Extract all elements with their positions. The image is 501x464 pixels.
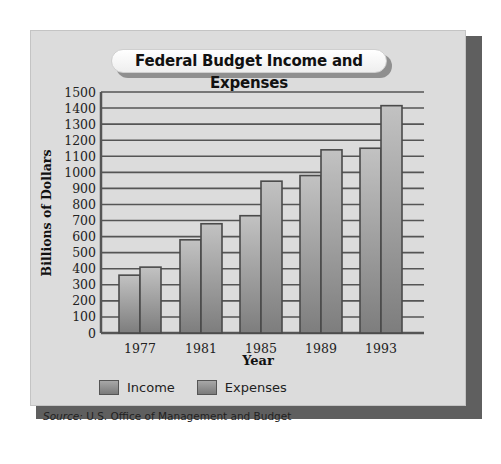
x-axis-label: Year [241,353,274,368]
y-tick-label: 1400 [64,101,96,116]
legend-label-income: Income [127,380,175,395]
source-note: Source: U.S. Office of Management and Bu… [43,410,291,422]
y-tick-label: 400 [72,261,96,276]
bar-income-1989 [300,176,321,333]
y-tick-label: 900 [72,181,96,196]
legend-item-income: Income [99,380,175,395]
y-tick-label: 1000 [64,165,96,180]
y-tick-label: 1200 [64,133,96,148]
y-tick-label: 1100 [64,149,96,164]
y-axis-label: Billions of Dollars [39,150,54,277]
y-tick-label: 700 [72,213,96,228]
bar-expenses-1981 [201,224,222,333]
y-tick-label: 1500 [64,85,96,100]
x-tick-label: 1977 [124,341,156,356]
bar-expenses-1977 [140,267,161,333]
y-tick-label: 600 [72,229,96,244]
bar-expenses-1989 [321,150,342,333]
bar-expenses-1985 [261,181,282,333]
y-tick-label: 0 [88,326,96,341]
y-tick-label: 500 [72,245,96,260]
legend-label-expenses: Expenses [225,380,287,395]
y-tick-label: 200 [72,293,96,308]
y-tick-label: 100 [72,309,96,324]
bar-income-1977 [119,275,140,333]
bar-income-1993 [360,148,381,333]
x-tick-label: 1981 [185,341,217,356]
y-tick-label: 1300 [64,117,96,132]
source-prefix: Source: [43,410,83,422]
y-tick-label: 800 [72,197,96,212]
y-tick-label: 300 [72,277,96,292]
bar-expenses-1993 [381,106,402,333]
expenses-swatch [197,380,217,395]
legend-item-expenses: Expenses [197,380,287,395]
bar-income-1981 [180,240,201,333]
source-text: U.S. Office of Management and Budget [83,410,292,422]
income-swatch [99,380,119,395]
bar-income-1985 [240,216,261,333]
x-tick-label: 1989 [305,341,337,356]
legend: Income Expenses [99,380,309,395]
x-tick-label: 1993 [365,341,397,356]
